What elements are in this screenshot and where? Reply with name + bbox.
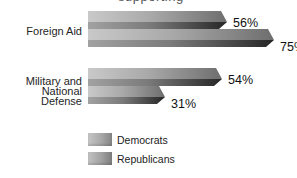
legend-label-republicans: Republicans: [117, 153, 175, 165]
bar-top-face: [88, 86, 165, 97]
cropped-title-fragment: supporting: [0, 0, 297, 5]
legend-label-democrats: Democrats: [117, 134, 168, 146]
bar-foreign-aid-republicans: 75%: [88, 29, 297, 47]
bar-shape: [88, 11, 227, 29]
bar-top-face: [88, 11, 227, 22]
bar-military-republicans: 31%: [88, 86, 196, 104]
value-label-military-democrats: 54%: [228, 73, 253, 87]
bar-front-face: [88, 40, 274, 47]
value-label-military-republicans: 31%: [171, 97, 196, 111]
category-label-foreign-aid: Foreign Aid: [0, 26, 82, 36]
legend-swatch-democrats: [88, 133, 112, 146]
value-label-foreign-aid-republicans: 75%: [280, 40, 297, 54]
legend-item-republicans: Republicans: [88, 152, 175, 165]
bar-top-face: [88, 29, 274, 40]
bar-foreign-aid-democrats: 56%: [88, 11, 258, 29]
bar-front-face: [88, 22, 227, 29]
legend-item-democrats: Democrats: [88, 133, 168, 146]
bar-front-face: [88, 79, 222, 86]
bar-shape: [88, 86, 165, 104]
bar-front-face: [88, 97, 165, 104]
chart-canvas: supporting Foreign Aid Military and Nati…: [0, 0, 297, 178]
bar-shape: [88, 68, 222, 86]
legend-swatch-republicans: [88, 152, 112, 165]
bar-top-face: [88, 68, 222, 79]
cropped-title-text: supporting: [118, 0, 184, 4]
value-label-foreign-aid-democrats: 56%: [233, 16, 258, 30]
bar-shape: [88, 29, 274, 47]
category-label-military-national-defense: Military and National Defense: [0, 76, 82, 106]
bar-military-democrats: 54%: [88, 68, 253, 86]
category-label-line2: National Defense: [0, 86, 82, 106]
